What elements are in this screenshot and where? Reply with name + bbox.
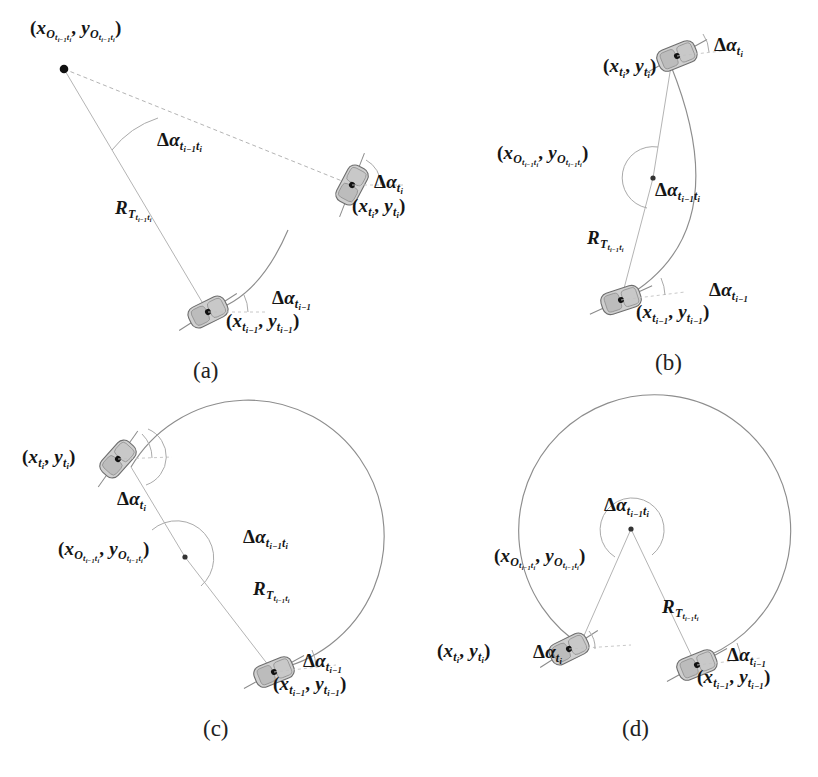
label-center-b: (xOti−1ti, yOti−1ti): [497, 143, 589, 165]
label-heading-cur-a: Δαti: [374, 172, 403, 191]
label-pos-cur-a: (xti, yti): [352, 196, 406, 215]
label-pos-prev-a: (xti−1, yti−1): [226, 311, 299, 330]
panel-c: (xti, yti) Δαti (xOti−1ti, yOti−1ti) Δαt…: [0, 389, 409, 777]
label-pos-cur-d: (xti, yti): [437, 641, 491, 660]
label-pos-prev-c: (xti−1, yti−1): [273, 674, 346, 693]
label-turn-angle-a: Δαti−1ti: [157, 130, 202, 149]
panel-caption-b: (b): [655, 350, 682, 376]
label-center-d: (xOti−1ti, yOti−1ti): [494, 546, 586, 568]
label-pos-cur-b: (xti, yti): [603, 56, 657, 75]
label-radius-c: RTti−1ti: [253, 579, 290, 601]
label-turn-angle-c: Δαti−1ti: [243, 527, 288, 546]
panel-caption-d: (d): [622, 716, 649, 742]
label-radius-d: RTti−1ti: [662, 597, 699, 619]
label-radius-a: RTti−1ti: [115, 198, 152, 220]
label-heading-prev-a: Δαti−1: [272, 288, 311, 307]
panel-caption-c: (c): [203, 716, 229, 742]
label-pos-prev-d: (xti−1, yti−1): [697, 667, 770, 686]
label-heading-prev-d: Δαti−1: [727, 645, 766, 664]
label-heading-cur-d: Δαti: [533, 642, 562, 661]
label-turn-angle-d: Δαti−1ti: [604, 495, 649, 514]
label-heading-prev-c: Δαti−1: [303, 651, 342, 670]
panel-d: Δαti−1ti (xOti−1ti, yOti−1ti) RTti−1ti (…: [409, 389, 818, 777]
label-center-c: (xOti−1ti, yOti−1ti): [58, 539, 150, 561]
label-heading-cur-c: Δαti: [117, 489, 146, 508]
label-heading-prev-b: Δαti−1: [709, 280, 748, 299]
panel-b: (xti, yti) Δαti (xOti−1ti, yOti−1ti) Δαt…: [409, 0, 818, 388]
label-center-a: (xOti−1ti, yOti−1ti): [30, 18, 122, 40]
label-heading-cur-b: Δαti: [714, 35, 743, 54]
figure-vehicle-turn-geometry: (xOti−1ti, yOti−1ti) Δαti−1ti RTti−1ti Δ…: [0, 0, 818, 777]
panel-caption-a: (a): [193, 358, 219, 384]
label-radius-b: RTti−1ti: [587, 228, 624, 250]
label-pos-prev-b: (xti−1, yti−1): [636, 302, 709, 321]
label-pos-cur-c: (xti, yti): [22, 447, 76, 466]
label-turn-angle-b: Δαti−1ti: [655, 180, 700, 199]
panel-a: (xOti−1ti, yOti−1ti) Δαti−1ti RTti−1ti Δ…: [0, 0, 409, 388]
